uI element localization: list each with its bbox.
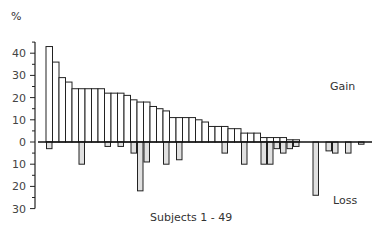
y-tick-label: 30 bbox=[12, 203, 26, 216]
gain-bar bbox=[215, 126, 222, 142]
gain-bar bbox=[72, 89, 79, 142]
gain-loss-bar-chart: % 403020100102030 Gain Loss Subjects 1 -… bbox=[0, 0, 389, 230]
y-tick-label: 40 bbox=[12, 47, 26, 60]
y-tick-label: 20 bbox=[12, 180, 26, 193]
gain-bar bbox=[254, 133, 261, 142]
gain-bar bbox=[176, 118, 183, 142]
loss-bar bbox=[177, 142, 183, 160]
y-tick-label: 0 bbox=[19, 136, 26, 149]
gain-bar bbox=[235, 129, 242, 142]
gain-bar bbox=[150, 106, 157, 142]
loss-label: Loss bbox=[333, 194, 357, 207]
loss-bar bbox=[105, 142, 111, 146]
gain-bar bbox=[228, 129, 235, 142]
gain-bar bbox=[280, 138, 287, 142]
loss-bar bbox=[144, 142, 150, 162]
gain-bar bbox=[59, 78, 66, 142]
gain-bar bbox=[105, 93, 112, 142]
y-axis: 403020100102030 bbox=[12, 42, 35, 216]
y-tick-label: 10 bbox=[12, 158, 26, 171]
y-tick-label: 30 bbox=[12, 69, 26, 82]
loss-bar bbox=[346, 142, 352, 153]
bars bbox=[46, 47, 364, 196]
loss-bar bbox=[333, 142, 339, 153]
gain-bar bbox=[53, 62, 60, 142]
gain-bar bbox=[222, 126, 229, 142]
gain-bar bbox=[163, 111, 170, 142]
gain-bar bbox=[137, 102, 144, 142]
x-axis-label: Subjects 1 - 49 bbox=[150, 211, 232, 224]
gain-bar bbox=[92, 89, 99, 142]
gain-bar bbox=[209, 126, 216, 142]
loss-bar bbox=[118, 142, 124, 146]
loss-bar bbox=[261, 142, 267, 164]
gain-bar bbox=[46, 47, 53, 142]
gain-bar bbox=[202, 122, 209, 142]
gain-bar bbox=[85, 89, 92, 142]
loss-bar bbox=[287, 142, 293, 149]
loss-bar bbox=[294, 142, 300, 146]
loss-bar bbox=[79, 142, 85, 164]
gain-label: Gain bbox=[330, 80, 355, 93]
loss-bar bbox=[281, 142, 287, 153]
gain-bar bbox=[124, 95, 131, 142]
loss-bar bbox=[131, 142, 137, 153]
gain-bar bbox=[170, 118, 177, 142]
loss-bar bbox=[326, 142, 332, 151]
loss-bar bbox=[47, 142, 53, 149]
gain-bar bbox=[79, 89, 86, 142]
gain-bar bbox=[248, 133, 255, 142]
gain-bar bbox=[111, 93, 118, 142]
gain-bar bbox=[189, 118, 196, 142]
gain-bar bbox=[157, 109, 164, 142]
gain-bar bbox=[66, 82, 73, 142]
y-tick-label: 10 bbox=[12, 114, 26, 127]
loss-bar bbox=[164, 142, 170, 164]
y-tick-label: 20 bbox=[12, 92, 26, 105]
gain-bar bbox=[183, 118, 190, 142]
loss-bar bbox=[242, 142, 248, 164]
loss-bar bbox=[222, 142, 228, 153]
gain-bar bbox=[196, 120, 203, 142]
gain-bar bbox=[274, 138, 281, 142]
y-unit-label: % bbox=[11, 10, 21, 23]
gain-bar bbox=[131, 100, 138, 142]
loss-bar bbox=[138, 142, 144, 191]
gain-bar bbox=[98, 89, 105, 142]
gain-bar bbox=[144, 102, 151, 142]
gain-bar bbox=[267, 138, 274, 142]
gain-bar bbox=[118, 93, 125, 142]
loss-bar bbox=[274, 142, 280, 149]
gain-bar bbox=[261, 138, 268, 142]
loss-bar bbox=[268, 142, 274, 164]
gain-bar bbox=[241, 133, 248, 142]
loss-bar bbox=[313, 142, 319, 195]
